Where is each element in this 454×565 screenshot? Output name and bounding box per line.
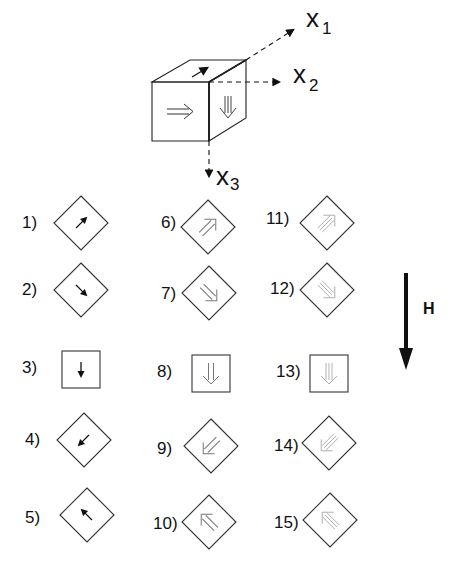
double-arrow-icon	[198, 433, 224, 459]
axis-x2-subscript: 2	[309, 77, 318, 94]
item-label-12: 12)	[270, 280, 295, 297]
diamond-frame	[181, 200, 235, 254]
axis-x2-label: x	[293, 61, 306, 87]
item-12	[300, 263, 354, 317]
square-frame	[192, 355, 230, 392]
cube-front-double-arrow-icon	[167, 104, 193, 119]
item-label-10: 10)	[153, 515, 178, 532]
item-2	[54, 263, 108, 317]
item-5	[60, 488, 114, 542]
double-arrow-icon	[196, 280, 222, 306]
diamond-frame	[184, 419, 238, 473]
item-label-11: 11)	[266, 210, 289, 227]
double-arrow-icon	[196, 509, 222, 535]
triple-arrow-icon	[314, 210, 340, 236]
axis-x1-subscript: 1	[322, 20, 331, 37]
cube-side-triple-arrow-icon	[220, 96, 236, 118]
item-label-15: 15)	[274, 514, 299, 531]
cube-top-arrow-icon	[192, 68, 207, 77]
item-10	[182, 495, 236, 549]
item-label-7: 7)	[161, 285, 176, 302]
item-7	[182, 266, 236, 320]
item-label-3: 3)	[22, 359, 37, 376]
item-11	[300, 196, 354, 250]
single-arrow-icon	[78, 362, 85, 378]
field-h-arrowhead-icon	[399, 348, 413, 370]
item-9	[184, 419, 238, 473]
single-arrow-icon	[74, 214, 90, 230]
triple-arrow-icon	[316, 430, 342, 456]
triple-arrow-icon	[321, 363, 337, 384]
item-label-9: 9)	[157, 440, 172, 457]
item-label-6: 6)	[161, 214, 176, 231]
item-label-8: 8)	[157, 363, 172, 380]
item-6	[181, 200, 235, 254]
axis-x3-subscript: 3	[230, 176, 239, 193]
triple-arrow-icon	[314, 277, 340, 303]
item-label-13: 13)	[276, 363, 301, 380]
item-label-2: 2)	[22, 281, 37, 298]
item-14	[302, 416, 356, 470]
item-1	[54, 196, 108, 250]
item-8	[192, 355, 230, 392]
item-label-4: 4)	[25, 431, 40, 448]
item-label-14: 14)	[274, 437, 299, 454]
item-label-1: 1)	[22, 214, 37, 231]
double-arrow-icon	[203, 363, 219, 384]
axis-x1-label: x	[306, 5, 319, 31]
double-arrow-icon	[195, 214, 221, 240]
single-arrow-icon	[74, 283, 90, 299]
diamond-frame	[182, 495, 236, 549]
diamond-frame	[182, 266, 236, 320]
field-h-label: H	[423, 300, 435, 318]
item-3	[62, 351, 100, 388]
item-13	[310, 355, 348, 392]
single-arrow-icon	[78, 506, 94, 522]
diagram-canvas	[0, 0, 454, 565]
item-4	[57, 413, 111, 467]
axis-x3-label: x	[216, 163, 229, 189]
single-arrow-icon	[75, 433, 91, 449]
item-15	[303, 493, 357, 547]
item-label-5: 5)	[25, 509, 40, 526]
triple-arrow-icon	[317, 507, 343, 533]
axis-x1-arrow	[246, 30, 293, 60]
